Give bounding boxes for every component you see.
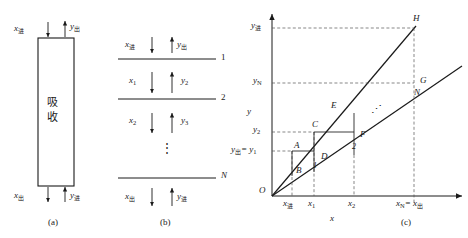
panel-b-stream-1-right: y2: [181, 76, 188, 85]
figure-container: x进 y出 x出 y进 吸 收 (a) x进 y出 x1 y2 x2 y3 x出…: [0, 0, 468, 238]
point-label-H: H: [413, 14, 420, 23]
step-number-2: 2: [352, 143, 356, 151]
panel-b-stream-0-right: y出: [177, 40, 187, 49]
x-axis-title: x: [330, 214, 334, 223]
panel-a-top-right-label: y出: [70, 22, 80, 31]
panel-c-caption: (c): [401, 218, 411, 227]
point-label-F: F: [360, 130, 366, 139]
panel-a-bottom-left-label: x出: [14, 191, 24, 200]
panel-b-stream-3-left: x出: [125, 192, 135, 201]
panel-a-box-text-line1: 吸: [47, 97, 58, 108]
y-axis-title: y: [247, 107, 251, 116]
x-tick-label-2: x2: [348, 199, 355, 208]
panel-b-caption: (b): [160, 218, 171, 227]
y-tick-label-inlet: y进: [251, 21, 261, 30]
panel-a-bottom-right-label: y进: [70, 191, 80, 200]
panel-b-vertical-dots: ⋮: [161, 142, 173, 154]
panel-b-stream-2-left: x2: [129, 116, 136, 125]
panel-b-stage-label-2: 2: [221, 93, 226, 102]
continuation-dots: ⋰: [371, 104, 382, 115]
panel-b-stream-1-left: x1: [129, 76, 136, 85]
point-label-G: G: [420, 76, 427, 85]
point-label-N: N: [414, 88, 420, 97]
panel-b-stream-3-right: y进: [177, 192, 187, 201]
panel-a-top-left-label: x进: [14, 24, 24, 33]
point-label-D: D: [321, 152, 328, 161]
panel-b-stream-2-right: y3: [181, 116, 188, 125]
x-tick-label-outlet: xN= x出: [396, 199, 423, 208]
panel-b-stream-0-left: x进: [125, 40, 135, 49]
step-number-1: 1: [313, 162, 317, 170]
point-label-C: C: [312, 120, 318, 129]
panel-b-stage-label-1: 1: [221, 53, 226, 62]
y-tick-label-N: yN: [253, 76, 262, 85]
y-tick-label-2: y2: [253, 125, 260, 134]
point-label-B: B: [296, 166, 302, 175]
panel-a-caption: (a): [48, 218, 58, 227]
x-tick-label-inlet: x进: [283, 199, 293, 208]
point-label-E: E: [331, 101, 337, 110]
x-tick-label-1: x1: [308, 199, 315, 208]
origin-label: O: [259, 186, 266, 195]
y-tick-label-outlet: y出= y1: [231, 145, 257, 154]
point-label-A: A: [294, 141, 300, 150]
panel-b-stage-label-N: N: [221, 171, 227, 180]
panel-a-box-text-line2: 收: [47, 112, 58, 123]
